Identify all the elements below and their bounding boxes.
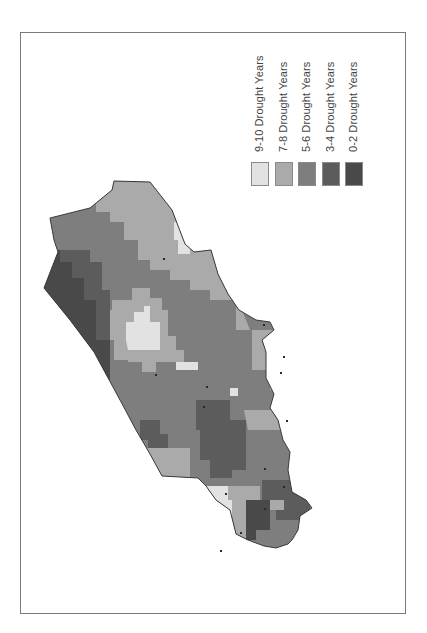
- station-marker: [283, 356, 285, 358]
- legend-swatch-3-4: [322, 162, 340, 186]
- legend-label-5-6: 5-6 Drought Years: [300, 62, 312, 152]
- region-9-10: [230, 388, 238, 396]
- station-marker: [225, 493, 227, 495]
- legend-swatch-5-6: [298, 162, 316, 186]
- drought-map: [0, 0, 427, 633]
- station-marker: [155, 374, 157, 376]
- region-7-8: [244, 410, 280, 430]
- station-marker: [220, 550, 222, 552]
- legend-swatch-9-10: [251, 162, 269, 186]
- legend-label-7-8: 7-8 Drought Years: [277, 62, 289, 152]
- region-7-8: [270, 500, 284, 510]
- station-marker: [286, 420, 288, 422]
- station-marker: [206, 386, 208, 388]
- legend-label-0-2: 0-2 Drought Years: [347, 62, 359, 152]
- region-9-10: [176, 362, 198, 370]
- legend-swatch-7-8: [275, 162, 293, 186]
- station-marker: [280, 372, 282, 374]
- station-marker: [240, 532, 242, 534]
- station-marker: [203, 406, 205, 408]
- station-marker: [283, 486, 285, 488]
- station-marker: [264, 468, 266, 470]
- station-marker: [264, 508, 266, 510]
- legend-label-9-10: 9-10 Drought Years: [253, 55, 265, 152]
- legend-swatch-0-2: [345, 162, 363, 186]
- station-marker: [263, 324, 265, 326]
- station-marker: [163, 258, 165, 260]
- legend-label-3-4: 3-4 Drought Years: [324, 62, 336, 152]
